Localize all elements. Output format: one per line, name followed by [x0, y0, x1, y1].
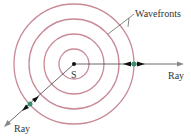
ray-right-marker: [132, 62, 137, 67]
ray-right-arrow-left-icon: [123, 62, 131, 67]
ray-left-arrow-up-icon: [32, 96, 39, 103]
source-label: S: [71, 69, 77, 80]
ray-left-marker: [28, 102, 33, 107]
source-point: [72, 62, 76, 66]
wavefront-diagram: S Wavefronts Ray Ray: [0, 0, 191, 140]
ray-right-label: Ray: [168, 70, 184, 81]
ray-right-arrow-right-icon: [137, 62, 145, 67]
wavefronts-label: Wavefronts: [135, 8, 181, 19]
ray-right-arrowhead-icon: [177, 62, 184, 67]
ray-left-label: Ray: [14, 123, 30, 134]
ray-right: [74, 62, 184, 67]
